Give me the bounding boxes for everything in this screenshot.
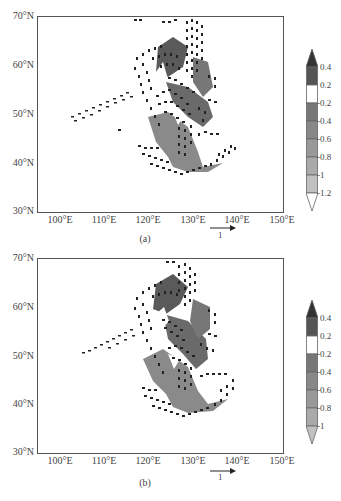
colorbar-a-label-0: 0.4 [320, 62, 331, 72]
reference-vector-arrow-a [208, 223, 238, 233]
plot-area-b [37, 258, 284, 454]
xtick-110e-a: 110°E [84, 214, 124, 225]
colorbar-a-label-1: 0.2 [320, 80, 331, 90]
map-field-b [38, 259, 283, 453]
xtick-100e-b: 100°E [40, 455, 80, 466]
panel-caption-b: (b) [125, 477, 165, 488]
ytick-30n-a: 30°N [0, 205, 34, 216]
xtick-120e-a: 120°E [128, 214, 168, 225]
xtick-110e-b: 110°E [84, 455, 124, 466]
ytick-60n-b: 60°N [0, 301, 34, 312]
ytick-40n-b: 40°N [0, 398, 34, 409]
colorbar-a-label-2: -0.2 [317, 98, 331, 108]
panel-b: 70°N 60°N 50°N 40°N 30°N 100°E 110°E 120… [0, 250, 341, 501]
colorbar-b-label-6: -1 [317, 421, 325, 431]
panel-a: 70°N 60°N 50°N 40°N 30°N 100°E 110°E 120… [0, 0, 341, 250]
plot-area-a [37, 16, 284, 213]
colorbar-b-label-1: 0.2 [320, 331, 331, 341]
panel-caption-a: (a) [125, 233, 165, 244]
ytick-50n-a: 50°N [0, 108, 34, 119]
colorbar-b-label-2: -0.2 [317, 349, 331, 359]
colorbar-a-label-5: -0.8 [317, 152, 331, 162]
colorbar-b-label-5: -0.8 [317, 403, 331, 413]
ytick-70n-a: 70°N [0, 10, 34, 21]
xtick-140e-b: 140°E [217, 455, 257, 466]
ytick-40n-a: 40°N [0, 157, 34, 168]
xtick-100e-a: 100°E [40, 214, 80, 225]
xtick-130e-a: 130°E [173, 214, 213, 225]
reference-vector-label-b: 1 [218, 472, 223, 482]
reference-vector-arrow-b [208, 466, 238, 476]
xtick-130e-b: 130°E [173, 455, 213, 466]
reference-vector-label-a: 1 [218, 230, 223, 240]
colorbar-a-label-6: -1 [317, 170, 325, 180]
colorbar-a-label-4: -0.6 [317, 134, 331, 144]
colorbar-a-label-7: -1.2 [317, 188, 331, 198]
wind-vectors-a [71, 19, 236, 175]
xtick-150e-a: 150°E [262, 214, 302, 225]
ytick-60n-a: 60°N [0, 59, 34, 70]
colorbar-a-label-3: -0.4 [317, 116, 331, 126]
ytick-30n-b: 30°N [0, 446, 34, 457]
colorbar-b-label-3: -0.4 [317, 367, 331, 377]
colorbar-b-label-4: -0.6 [317, 385, 331, 395]
colorbar-b-label-0: 0.4 [320, 313, 331, 323]
xtick-150e-b: 150°E [262, 455, 302, 466]
ytick-70n-b: 70°N [0, 252, 34, 263]
ytick-50n-b: 50°N [0, 350, 34, 361]
map-field-a [38, 17, 283, 212]
xtick-120e-b: 120°E [128, 455, 168, 466]
